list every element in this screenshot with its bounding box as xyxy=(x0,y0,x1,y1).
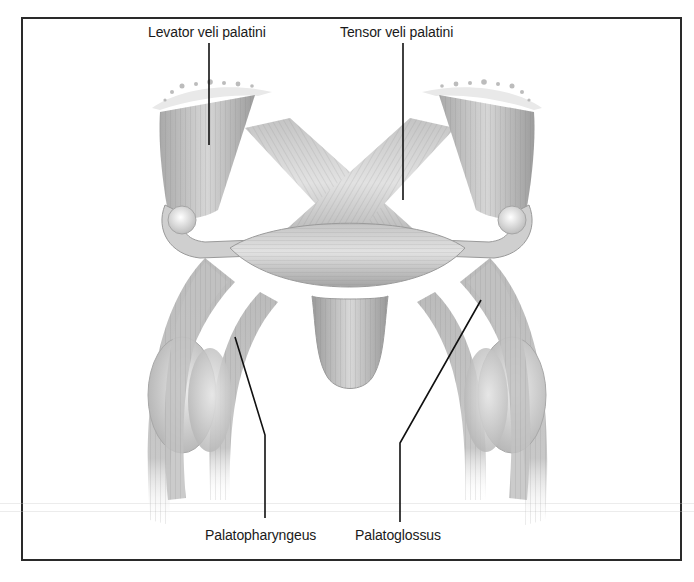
soft-palate-illustration xyxy=(0,0,694,582)
right-hamulus xyxy=(498,206,526,234)
uvula xyxy=(312,296,388,389)
label-levator-veli-palatini: Levator veli palatini xyxy=(148,24,266,40)
label-palatopharyngeus: Palatopharyngeus xyxy=(205,527,316,543)
palatal-band xyxy=(230,223,465,287)
left-hamulus xyxy=(168,206,196,234)
label-tensor-veli-palatini: Tensor veli palatini xyxy=(340,24,453,40)
levator-right xyxy=(439,95,535,219)
levator-left xyxy=(159,95,255,219)
label-palatoglossus: Palatoglossus xyxy=(355,527,441,543)
